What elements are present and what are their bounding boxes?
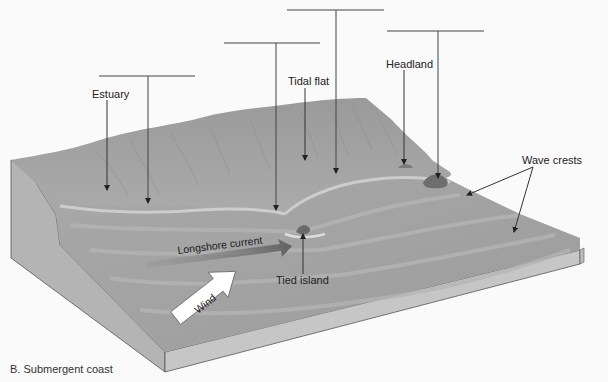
figure-caption: B. Submergent coast — [10, 363, 113, 375]
tied-island-label: Tied island — [276, 274, 329, 286]
coast-block-diagram: Longshore current Wind — [0, 0, 608, 382]
diagram-canvas: Longshore current Wind Estuary Tidal fla… — [0, 0, 608, 382]
headland-label: Headland — [386, 58, 433, 70]
block-front-right-cap — [580, 248, 584, 264]
wave-crests-label: Wave crests — [522, 154, 582, 166]
estuary-label: Estuary — [92, 88, 129, 100]
tidal-flat-label: Tidal flat — [288, 75, 329, 87]
